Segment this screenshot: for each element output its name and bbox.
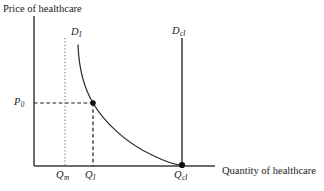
x-tick-label-qci-base: Q xyxy=(174,169,182,180)
x-tick-label-qi: QI xyxy=(85,170,95,181)
marker-equilibrium-insured xyxy=(90,100,96,106)
marker-equilibrium-complete-insurance xyxy=(179,162,185,168)
demand-curve-figure: Price of healthcare Quantity of healthca… xyxy=(0,0,324,191)
x-tick-label-qm-base: Q xyxy=(56,169,64,180)
x-tick-label-qci-sub: cI xyxy=(182,174,188,182)
x-axis-title: Quantity of healthcare xyxy=(222,166,316,177)
curve-label-di-base: D xyxy=(71,26,79,37)
x-tick-label-qm: Qm xyxy=(56,170,69,181)
x-tick-label-qi-base: Q xyxy=(85,169,93,180)
x-tick-label-qci: QcI xyxy=(174,170,187,181)
y-axis-title: Price of healthcare xyxy=(3,4,82,15)
x-tick-label-qm-sub: m xyxy=(64,174,70,182)
x-tick-label-qi-sub: I xyxy=(93,174,96,182)
curve-label-dci: DcI xyxy=(172,26,185,37)
curve-label-di: DI xyxy=(71,27,81,38)
y-tick-label-p0: P0 xyxy=(14,97,24,108)
curve-label-dci-sub: cI xyxy=(180,30,186,38)
curve-label-dci-base: D xyxy=(172,25,180,36)
plot-area xyxy=(0,0,324,191)
curve-label-di-sub: I xyxy=(79,31,82,39)
y-tick-label-p0-sub: 0 xyxy=(20,101,24,109)
